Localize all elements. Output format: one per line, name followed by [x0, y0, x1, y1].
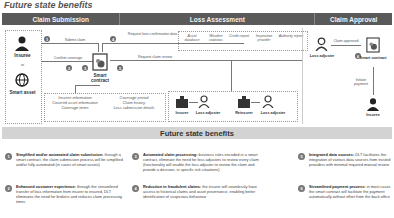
phase-separator	[302, 28, 303, 124]
request-claim-review-label: Request claim review	[125, 55, 185, 59]
benefits-banner: Future state benefits	[2, 127, 392, 139]
step-badge: 4	[110, 36, 116, 42]
insurer-building-icon	[175, 96, 189, 108]
benefit-item: Streamlined payment process: in most cas…	[309, 184, 391, 199]
loss-adjuster-label: Loss adjuster	[305, 54, 339, 58]
benefit-number: 1	[5, 153, 12, 160]
benefit-item: Enhanced customer experience: through th…	[16, 184, 128, 204]
link-line	[251, 102, 260, 103]
link-line	[189, 102, 198, 103]
page-title: Future state benefits	[4, 0, 93, 10]
step-badge: 1	[44, 36, 50, 42]
smart-contract-label: Smart contract	[85, 73, 115, 83]
smart-asset-globe-icon	[14, 72, 30, 88]
smart-contract-icon	[366, 37, 380, 53]
benefit-item: Reduction in fraudulent claims: the insu…	[143, 184, 268, 199]
phase-bar: Claim Submission Loss Assessment Claim A…	[2, 13, 392, 25]
smart-contract-icon	[92, 53, 108, 71]
confirm-coverage-arrow	[41, 61, 93, 62]
review-party-label: Loss adjuster	[194, 111, 222, 115]
data-source-item: Authority report	[278, 34, 304, 38]
insuree-label: Insuree	[5, 53, 40, 58]
data-source-item: Asset database	[180, 34, 204, 42]
data-source-item: Credit report	[228, 34, 250, 38]
contract-data-right: Coverage period Claim history Loss submi…	[105, 96, 163, 111]
reinsurer-building-icon	[237, 96, 251, 108]
data-source-item: Inspection provider	[250, 34, 278, 42]
benefit-number: 2	[5, 185, 12, 192]
phase-claim-approval: Claim Approval	[315, 13, 392, 25]
benefit-number: 3	[132, 153, 139, 160]
submit-claim-label: Submit claim	[55, 38, 95, 42]
benefit-item: Integrated data sources: DLT facilitates…	[309, 152, 391, 167]
request-claim-review-arrow	[110, 60, 302, 61]
step-badge: 3	[82, 65, 88, 71]
contract-data-connector	[75, 85, 100, 86]
step-badge: 5	[117, 65, 123, 71]
claim-approved-arrow	[331, 45, 361, 46]
review-party-label: Reinsurer	[231, 111, 257, 115]
contract-data-left: Insuree information Covered asset inform…	[45, 96, 105, 111]
initiate-payment-arrow	[373, 67, 374, 95]
loss-adjuster-icon	[198, 95, 210, 108]
loss-adjuster-approval-icon	[315, 37, 328, 51]
benefit-number: 6	[298, 185, 305, 192]
loss-adjuster-icon	[262, 95, 274, 108]
phase-loss-assessment: Loss Assessment	[120, 13, 315, 25]
benefit-item: Simplified and/or automated claim submis…	[16, 152, 128, 167]
phase-claim-submission: Claim Submission	[2, 13, 120, 25]
request-loss-data-label: Request loss confirmation data	[125, 32, 180, 36]
insuree-label: Insuree	[358, 113, 388, 117]
review-party-label: Insurer	[170, 111, 194, 115]
or-label: or	[5, 63, 40, 67]
insuree-icon	[366, 97, 380, 111]
review-party-label: Loss adjuster	[258, 111, 288, 115]
step-badge: 2	[66, 65, 72, 71]
smart-asset-label: Smart asset	[5, 90, 40, 95]
request-loss-data-arrow-up	[102, 43, 103, 52]
confirm-coverage-label: Confirm coverage	[48, 56, 88, 60]
initiate-payment-label: Initiate payment	[350, 78, 372, 86]
review-connector	[231, 60, 232, 91]
smart-contract-label: Smart contract	[358, 56, 388, 60]
benefit-item: Automated claim processing: business rul…	[143, 152, 268, 172]
benefit-number: 4	[132, 185, 139, 192]
contract-data-connector	[75, 85, 76, 93]
data-source-item: Weather statistics	[204, 34, 228, 42]
claim-approved-label: Claim approved	[330, 39, 362, 43]
submit-claim-arrow-down	[98, 43, 99, 52]
benefit-number: 5	[298, 153, 305, 160]
submit-claim-arrow	[41, 43, 98, 44]
insuree-icon	[14, 35, 30, 51]
